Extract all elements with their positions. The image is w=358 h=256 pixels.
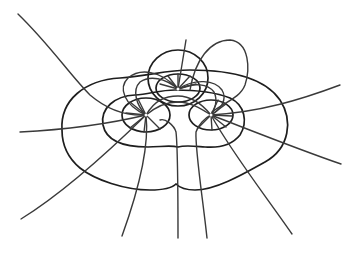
field-line-bottom-center bbox=[160, 120, 178, 238]
field-line-lower-right bbox=[211, 115, 341, 164]
field-line-bottom-center-left bbox=[122, 115, 147, 236]
field-line-bottom-center-right bbox=[196, 115, 211, 238]
field-line-bottom-right bbox=[211, 115, 292, 234]
pole-left bbox=[145, 114, 148, 117]
field-line-left bbox=[20, 115, 146, 132]
middle-level-curve bbox=[103, 90, 245, 147]
field-diagram bbox=[0, 0, 358, 256]
pole-right bbox=[210, 114, 213, 117]
pole-top bbox=[177, 88, 180, 91]
